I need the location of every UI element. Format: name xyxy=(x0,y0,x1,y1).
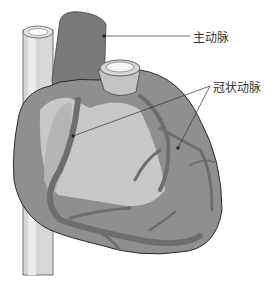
label-coronary-artery: 冠状动脉 xyxy=(213,78,261,95)
pulmonary-trunk xyxy=(98,60,140,96)
heart-body xyxy=(14,70,223,254)
heart-diagram xyxy=(0,0,271,287)
label-aorta: 主动脉 xyxy=(193,28,229,45)
